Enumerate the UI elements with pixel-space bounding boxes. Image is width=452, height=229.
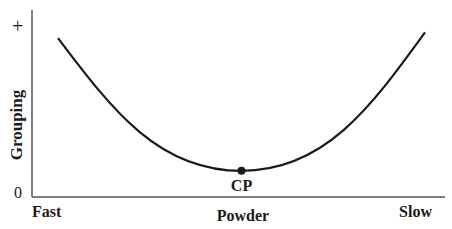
grouping-vs-powder-chart: CP + 0 Grouping Fast Powder Slow (0, 0, 452, 229)
y-axis-label: Grouping (7, 89, 26, 160)
y-tick-bottom: 0 (14, 184, 22, 201)
x-tick-left: Fast (32, 203, 62, 220)
x-axis-label: Powder (217, 207, 269, 224)
y-tick-top: + (12, 15, 23, 37)
grouping-curve (58, 32, 425, 170)
x-tick-right: Slow (399, 203, 432, 220)
cp-point-marker (238, 167, 246, 175)
cp-annotation-label: CP (231, 177, 253, 194)
